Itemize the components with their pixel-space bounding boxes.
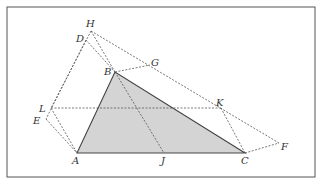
- label-a: A: [71, 155, 79, 166]
- label-e: E: [32, 115, 41, 126]
- label-h: H: [85, 18, 95, 29]
- label-c: C: [241, 155, 249, 166]
- label-g: G: [151, 57, 159, 68]
- segment-hb: [91, 31, 115, 72]
- segment-ea: [46, 119, 77, 153]
- segment-la: [51, 108, 77, 153]
- geometry-diagram: ABCDEFGHJKL: [0, 0, 324, 186]
- segment-bg: [115, 65, 150, 72]
- label-d: D: [75, 33, 84, 44]
- segment-de: [46, 40, 86, 119]
- label-k: K: [215, 97, 224, 108]
- label-f: F: [280, 141, 289, 152]
- label-j: J: [159, 155, 166, 166]
- label-l: L: [38, 103, 46, 114]
- label-b: B: [103, 66, 111, 77]
- triangle-abc: [77, 72, 245, 153]
- segment-cf: [245, 143, 279, 153]
